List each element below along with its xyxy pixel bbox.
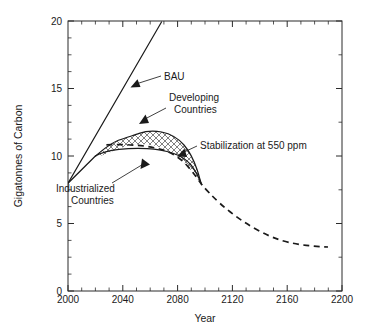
x-axis-title: Year: [194, 312, 216, 324]
series-stabilization-550ppm: [106, 145, 328, 247]
x-tick-label-2000: 2000: [57, 294, 80, 305]
plot-frame: [68, 21, 342, 291]
industrialized-countries-arrowhead: [141, 159, 151, 170]
annotation-industrialized-countries: Industrialized Countries: [56, 159, 150, 207]
series-bau: [68, 22, 162, 183]
annotation-stabilization-label: Stabilization at 550 ppm: [200, 140, 307, 151]
x-tick-label-2080: 2080: [166, 294, 189, 305]
x-tick-label-2120: 2120: [221, 294, 244, 305]
annotation-industrialized-line1: Industrialized: [56, 183, 115, 194]
x-tick-label-2040: 2040: [112, 294, 135, 305]
top-axis-ticks: [82, 21, 329, 27]
annotation-developing-line1: Developing: [169, 92, 219, 103]
x-axis-ticks: [68, 285, 342, 291]
developing-countries-arrowhead: [139, 115, 149, 125]
y-tick-labels: 0 5 10 15 20: [51, 16, 63, 297]
y-tick-label-10: 10: [51, 151, 63, 162]
y-tick-label-5: 5: [56, 218, 62, 229]
plot-area: [68, 22, 328, 247]
annotation-developing-countries: Developing Countries: [139, 92, 219, 124]
annotation-bau-label: BAU: [164, 71, 185, 82]
annotation-stabilization: Stabilization at 550 ppm: [177, 140, 307, 157]
y-tick-label-15: 15: [51, 83, 63, 94]
annotation-bau: BAU: [131, 71, 185, 88]
chart-figure: 0 5 10 15 20 2000 2040 2080 2120 2160 22…: [0, 0, 376, 333]
y-tick-label-20: 20: [51, 16, 63, 27]
x-tick-label-2200: 2200: [331, 294, 354, 305]
emissions-band-fill: [95, 131, 201, 184]
bau-arrowhead: [131, 79, 141, 87]
right-axis-ticks: [336, 21, 342, 291]
annotation-developing-line2: Countries: [174, 104, 217, 115]
x-tick-label-2160: 2160: [276, 294, 299, 305]
carbon-emissions-chart: 0 5 10 15 20 2000 2040 2080 2120 2160 22…: [0, 0, 376, 333]
annotation-industrialized-line2: Countries: [71, 195, 114, 206]
y-axis-title: Gigatonnes of Carbon: [12, 104, 24, 207]
x-tick-labels: 2000 2040 2080 2120 2160 2200: [57, 294, 354, 305]
y-axis-ticks: [68, 21, 74, 291]
